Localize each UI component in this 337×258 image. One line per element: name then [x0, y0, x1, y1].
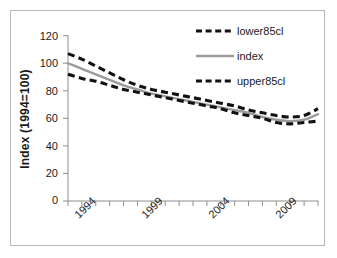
y-axis-ticks [63, 36, 68, 201]
y-tick-label-80: 80 [30, 85, 58, 97]
curve-index [68, 63, 318, 121]
legend-label-upper85cl: upper85cl [237, 75, 285, 87]
y-tick-label-100: 100 [30, 57, 58, 69]
legend-label-lower85cl: lower85cl [237, 25, 283, 37]
y-tick-label-40: 40 [30, 140, 58, 152]
y-tick-label-60: 60 [30, 112, 58, 124]
legend-label-index: index [237, 50, 263, 62]
legend-swatches [196, 31, 234, 81]
chart-plot-area: Index (1994=100) 120 100 80 60 40 20 0 1… [0, 0, 337, 258]
chart-screenshot: Index (1994=100) 120 100 80 60 40 20 0 1… [0, 0, 337, 258]
y-tick-label-20: 20 [30, 167, 58, 179]
data-curves [68, 54, 318, 124]
y-tick-label-0: 0 [30, 194, 58, 206]
y-tick-label-120: 120 [30, 30, 58, 42]
